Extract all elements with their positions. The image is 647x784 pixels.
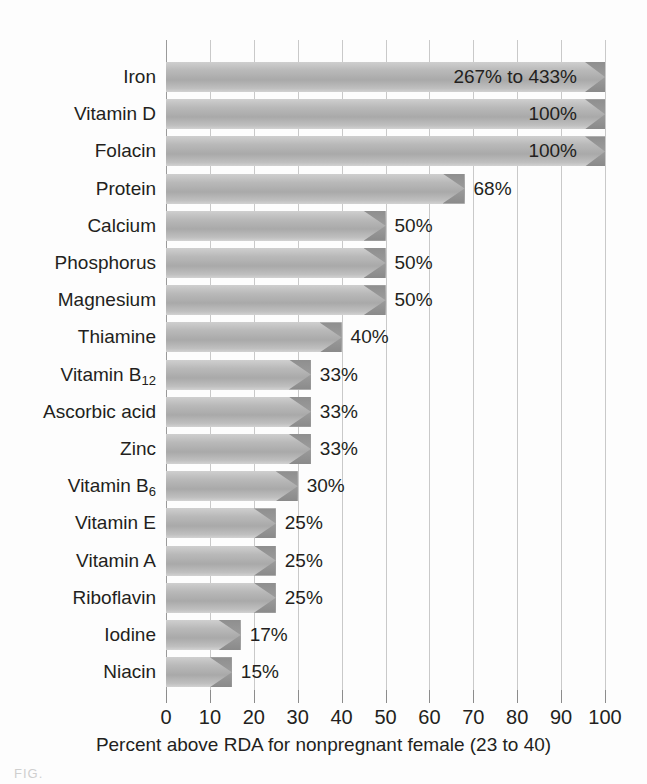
x-tick-60 xyxy=(429,690,430,703)
bar-row: 15% xyxy=(166,657,605,687)
bar-vitamin-b6 xyxy=(166,471,298,501)
bar-value-label: 100% xyxy=(166,136,577,166)
plot-area: 267% to 433%100%100%68%50%50%50%40%33%33… xyxy=(166,40,605,690)
bar-value-label: 25% xyxy=(285,508,323,538)
category-label-magnesium: Magnesium xyxy=(0,285,156,315)
x-tick-90 xyxy=(561,690,562,703)
x-tick-100 xyxy=(605,690,606,703)
bar-value-label: 33% xyxy=(320,434,358,464)
category-label-ascorbic-acid: Ascorbic acid xyxy=(0,397,156,427)
bar-vitamin-a xyxy=(166,546,276,576)
category-label-folacin: Folacin xyxy=(0,136,156,166)
bar-value-label: 68% xyxy=(474,174,512,204)
bar-row: 50% xyxy=(166,285,605,315)
x-tick-label-100: 100 xyxy=(575,704,635,730)
x-tick-30 xyxy=(298,690,299,703)
category-label-protein: Protein xyxy=(0,174,156,204)
category-label-phosphorus: Phosphorus xyxy=(0,248,156,278)
category-label-vitamin-e: Vitamin E xyxy=(0,508,156,538)
category-label-calcium: Calcium xyxy=(0,211,156,241)
bar-row: 50% xyxy=(166,248,605,278)
bar-calcium xyxy=(166,211,386,241)
bar-value-label: 50% xyxy=(395,211,433,241)
category-label-iron: Iron xyxy=(0,62,156,92)
bar-row: 40% xyxy=(166,322,605,352)
bar-phosphorus xyxy=(166,248,386,278)
bar-magnesium xyxy=(166,285,386,315)
bar-protein xyxy=(166,174,465,204)
bar-value-label: 50% xyxy=(395,285,433,315)
bar-value-label: 100% xyxy=(166,99,577,129)
bar-value-label: 25% xyxy=(285,583,323,613)
x-axis-title: Percent above RDA for nonpregnant female… xyxy=(0,734,647,756)
bar-value-label: 50% xyxy=(395,248,433,278)
bar-row: 33% xyxy=(166,360,605,390)
category-label-iodine: Iodine xyxy=(0,620,156,650)
bar-value-label: 25% xyxy=(285,546,323,576)
category-label-vitamin-a: Vitamin A xyxy=(0,546,156,576)
gridline-100 xyxy=(605,40,606,690)
category-axis-labels: IronVitamin DFolacinProteinCalciumPhosph… xyxy=(0,40,156,690)
bar-value-label: 33% xyxy=(320,397,358,427)
bar-row: 25% xyxy=(166,546,605,576)
bar-row: 267% to 433% xyxy=(166,62,605,92)
bar-row: 25% xyxy=(166,583,605,613)
category-label-vitamin-d: Vitamin D xyxy=(0,99,156,129)
bar-vitamin-b12 xyxy=(166,360,311,390)
bar-row: 30% xyxy=(166,471,605,501)
bar-row: 25% xyxy=(166,508,605,538)
bar-row: 100% xyxy=(166,136,605,166)
x-tick-20 xyxy=(254,690,255,703)
bar-value-label: 33% xyxy=(320,360,358,390)
x-axis-tick-labels: 0102030405060708090100 xyxy=(0,704,647,730)
bar-row: 17% xyxy=(166,620,605,650)
x-tick-80 xyxy=(517,690,518,703)
x-tick-10 xyxy=(210,690,211,703)
x-tick-70 xyxy=(473,690,474,703)
bar-row: 50% xyxy=(166,211,605,241)
x-axis-ticks xyxy=(166,690,605,704)
bar-row: 33% xyxy=(166,397,605,427)
bar-value-label: 30% xyxy=(307,471,345,501)
figure-note: FIG. xyxy=(14,766,43,781)
bar-row: 68% xyxy=(166,174,605,204)
bar-row: 100% xyxy=(166,99,605,129)
bar-thiamine xyxy=(166,322,342,352)
bar-value-label: 15% xyxy=(241,657,279,687)
category-label-zinc: Zinc xyxy=(0,434,156,464)
bar-chart-figure: IronVitamin DFolacinProteinCalciumPhosph… xyxy=(0,0,647,784)
bar-riboflavin xyxy=(166,583,276,613)
x-tick-0 xyxy=(166,690,167,703)
bar-niacin xyxy=(166,657,232,687)
category-label-riboflavin: Riboflavin xyxy=(0,583,156,613)
bar-iodine xyxy=(166,620,241,650)
bar-value-label: 40% xyxy=(351,322,389,352)
category-label-vitamin-b6: Vitamin B6 xyxy=(0,471,156,501)
bar-value-label: 17% xyxy=(250,620,288,650)
category-label-vitamin-b12: Vitamin B12 xyxy=(0,360,156,390)
category-label-niacin: Niacin xyxy=(0,657,156,687)
category-label-thiamine: Thiamine xyxy=(0,322,156,352)
x-tick-40 xyxy=(342,690,343,703)
bar-row: 33% xyxy=(166,434,605,464)
bar-zinc xyxy=(166,434,311,464)
bar-ascorbic-acid xyxy=(166,397,311,427)
bar-value-label: 267% to 433% xyxy=(166,62,577,92)
x-tick-50 xyxy=(386,690,387,703)
bar-vitamin-e xyxy=(166,508,276,538)
